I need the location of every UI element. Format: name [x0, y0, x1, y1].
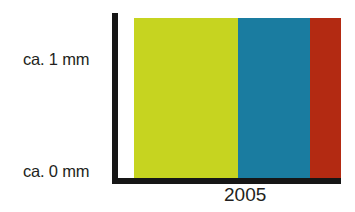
stacked-bar	[134, 18, 341, 178]
bar-segment-blue	[238, 18, 310, 178]
y-axis-tick-label-top: ca. 1 mm	[23, 51, 89, 68]
bar-segment-red	[310, 18, 341, 178]
y-axis-line	[112, 13, 118, 184]
bar-segment-green	[134, 18, 238, 178]
x-axis-tick-label-2005: 2005	[224, 185, 266, 204]
chart-container: ca. 1 mm ca. 0 mm 2005	[0, 0, 355, 212]
y-axis-tick-label-bottom: ca. 0 mm	[23, 163, 89, 180]
